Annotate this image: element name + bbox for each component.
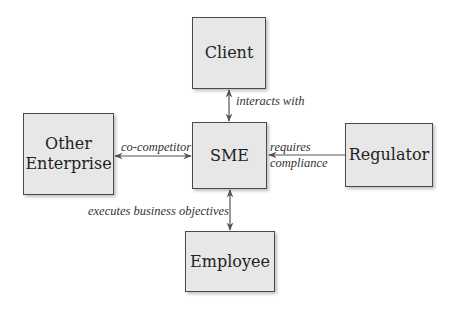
edge-label-requires: requires: [270, 141, 311, 154]
edge-label-interacts-with: interacts with: [236, 95, 304, 108]
node-other-enterprise: Other Enterprise: [23, 113, 114, 195]
diagram-canvas: Client SME Other Enterprise Regulator Em…: [0, 0, 456, 315]
edge-label-co-competitor: co-competitor: [121, 141, 191, 154]
node-employee-label: Employee: [190, 252, 270, 272]
node-other-enterprise-label-2: Enterprise: [25, 154, 111, 174]
node-regulator: Regulator: [345, 123, 433, 187]
node-other-enterprise-label-1: Other: [45, 134, 92, 154]
node-regulator-label: Regulator: [349, 145, 429, 165]
node-client: Client: [192, 17, 266, 89]
node-client-label: Client: [205, 43, 254, 63]
edge-label-executes-business-objectives: executes business objectives: [88, 205, 229, 218]
edge-label-compliance: compliance: [270, 157, 328, 170]
node-sme-label: SME: [210, 146, 249, 166]
node-employee: Employee: [185, 231, 275, 292]
node-sme: SME: [192, 122, 267, 189]
